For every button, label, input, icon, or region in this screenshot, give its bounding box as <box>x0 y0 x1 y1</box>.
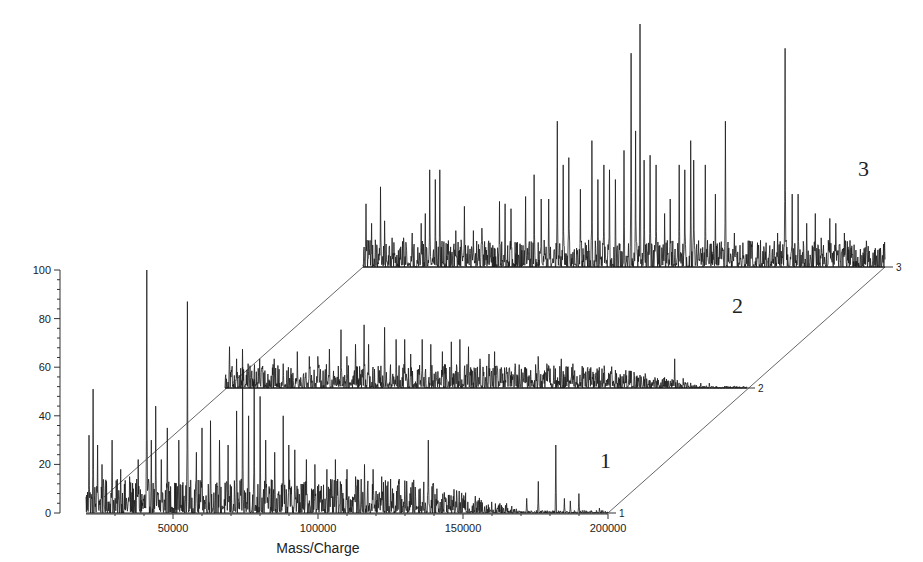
x-tick-label: 50000 <box>158 522 189 534</box>
series-label-2: 2 <box>732 293 743 318</box>
depth-line-left <box>86 267 363 513</box>
y-tick-label: 100 <box>33 264 51 276</box>
axes <box>54 267 893 519</box>
series-label-1: 1 <box>600 448 611 473</box>
waterfall-spectra-chart: 02040608010050000100000150000200000Mass/… <box>0 0 923 562</box>
depth-line-right <box>608 267 885 513</box>
depth-tick-label: 2 <box>758 383 764 394</box>
x-axis-title: Mass/Charge <box>276 540 359 556</box>
y-tick-label: 40 <box>39 410 51 422</box>
y-tick-label: 20 <box>39 458 51 470</box>
spectrum-series-2 <box>225 325 747 388</box>
y-tick-label: 80 <box>39 313 51 325</box>
series-label-3: 3 <box>858 156 869 181</box>
x-tick-label: 150000 <box>445 522 482 534</box>
spectrum-series-1 <box>86 270 608 513</box>
y-tick-label: 0 <box>45 507 51 519</box>
x-tick-label: 200000 <box>590 522 627 534</box>
depth-tick-label: 3 <box>896 262 902 273</box>
x-tick-label: 100000 <box>300 522 337 534</box>
series-layer <box>86 24 885 513</box>
depth-tick-label: 1 <box>619 508 625 519</box>
spectrum-series-3 <box>363 24 885 267</box>
y-tick-label: 60 <box>39 361 51 373</box>
